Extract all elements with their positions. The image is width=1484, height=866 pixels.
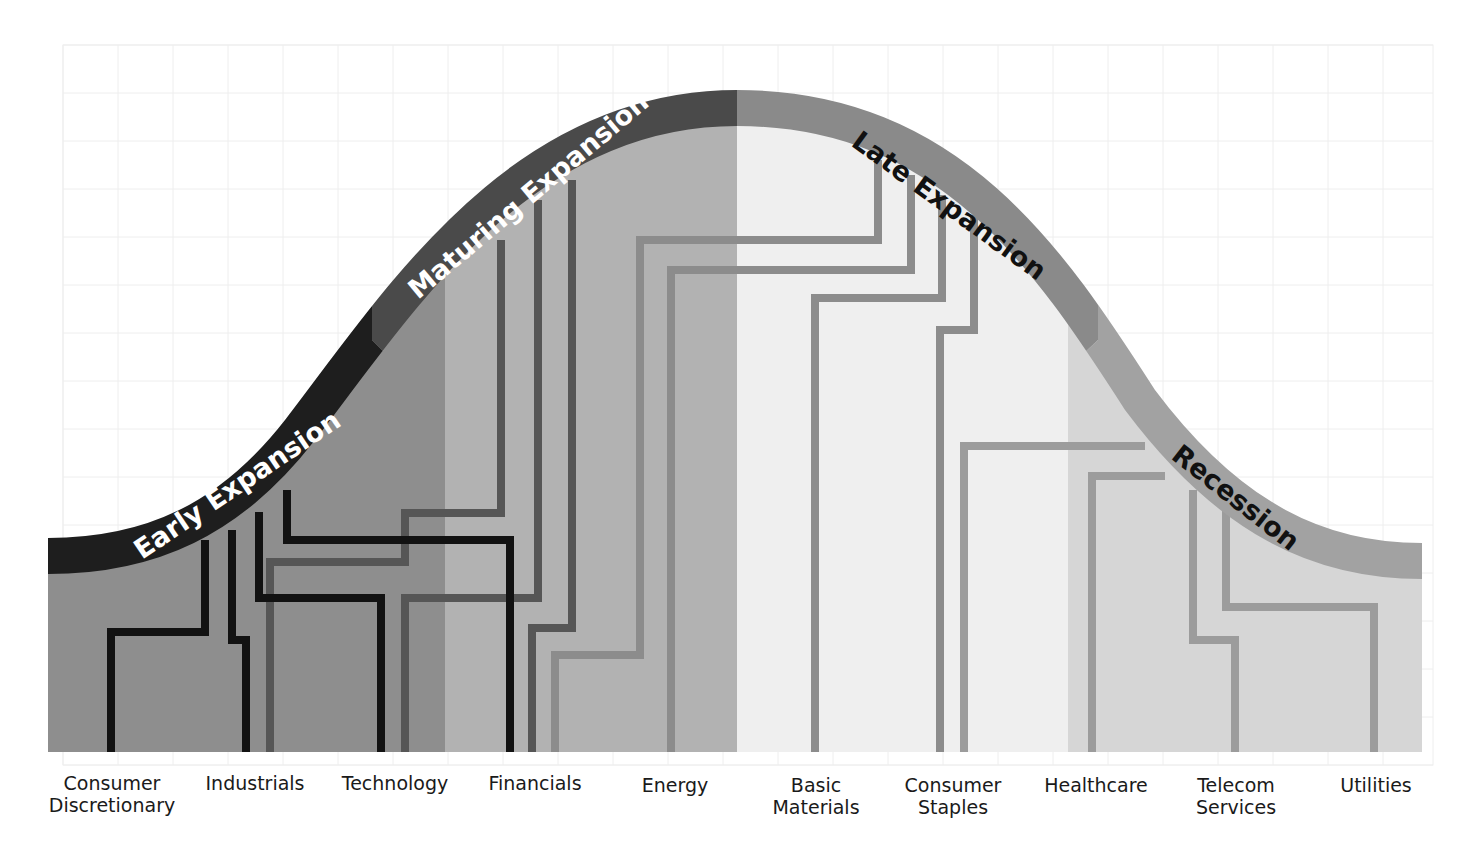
recession-fill xyxy=(1068,80,1422,752)
phase-fill-regions xyxy=(48,80,1422,752)
business-cycle-diagram: Early Expansion Maturing Expansion Late … xyxy=(0,0,1484,866)
sector-label-line: Discretionary xyxy=(27,794,197,816)
sector-label-line: Utilities xyxy=(1291,774,1461,796)
sector-label-line: Staples xyxy=(868,796,1038,818)
sector-label-line: Services xyxy=(1151,796,1321,818)
sector-label-utilities: Utilities xyxy=(1291,774,1461,796)
